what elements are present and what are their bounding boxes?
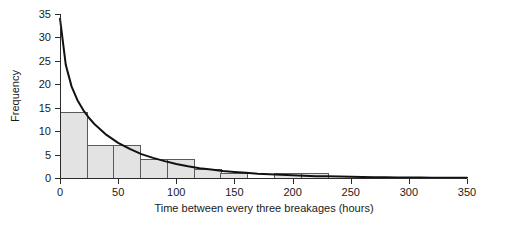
histogram-bar: [221, 174, 248, 179]
y-tick-label: 0: [45, 172, 51, 184]
y-axis-title: Frequency: [9, 70, 21, 122]
y-tick-label: 5: [45, 149, 51, 161]
histogram-figure: 05101520253035 050100150200250300350 Tim…: [0, 0, 523, 225]
x-tick-label: 100: [167, 186, 185, 198]
histogram-bar: [141, 160, 168, 179]
histogram-bar: [88, 146, 115, 179]
x-axis-title: Time between every three breakages (hour…: [154, 202, 373, 214]
x-axis-ticks: 050100150200250300350: [57, 179, 476, 198]
x-tick-label: 150: [225, 186, 243, 198]
x-tick-label: 0: [57, 186, 63, 198]
histogram-bar: [114, 146, 141, 179]
y-tick-label: 10: [39, 125, 51, 137]
histogram-bars: [61, 113, 329, 179]
y-tick-label: 25: [39, 55, 51, 67]
x-tick-label: 350: [458, 186, 476, 198]
x-tick-label: 250: [342, 186, 360, 198]
y-tick-label: 30: [39, 31, 51, 43]
chart-canvas: 05101520253035 050100150200250300350 Tim…: [0, 0, 523, 225]
y-tick-label: 20: [39, 78, 51, 90]
x-tick-label: 200: [283, 186, 301, 198]
x-tick-label: 300: [400, 186, 418, 198]
x-tick-label: 50: [112, 186, 124, 198]
y-axis-ticks: 05101520253035: [39, 8, 60, 184]
y-tick-label: 15: [39, 102, 51, 114]
y-tick-label: 35: [39, 8, 51, 20]
histogram-bar: [61, 113, 88, 179]
